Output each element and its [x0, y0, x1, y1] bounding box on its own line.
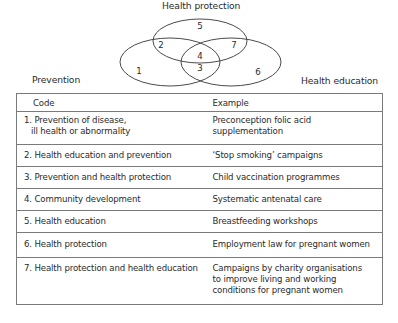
region-4-number: 4 — [197, 51, 202, 61]
header-example: Example — [210, 94, 383, 112]
code-cell: 5. Health education — [17, 211, 210, 233]
set-label-health-education: Health education — [301, 75, 378, 86]
example-cell: Campaigns by charity organisations to im… — [210, 258, 383, 305]
code-cell: 2. Health education and prevention — [17, 145, 210, 167]
code-line: ill health or abnormality — [24, 126, 206, 137]
region-5-number: 5 — [197, 21, 202, 31]
example-cell: Preconception folic acid supplementation — [210, 112, 383, 145]
region-6-number: 6 — [255, 67, 260, 77]
table-header-row: Code Example — [17, 94, 383, 112]
table-row: 3. Prevention and health protection Chil… — [17, 167, 383, 189]
example-cell: Systematic antenatal care — [210, 189, 383, 211]
region-3-number: 3 — [197, 63, 202, 73]
code-line: 1. Prevention of disease, — [24, 115, 126, 125]
prevention-ellipse — [120, 38, 220, 86]
code-example-table: Code Example 1. Prevention of disease, i… — [16, 93, 383, 305]
header-code: Code — [17, 94, 210, 112]
region-2-number: 2 — [158, 40, 163, 50]
example-cell: Child vaccination programmes — [210, 167, 383, 189]
region-7-number: 7 — [231, 40, 236, 50]
code-cell: 7. Health protection and health educatio… — [17, 258, 210, 305]
table-row: 1. Prevention of disease, ill health or … — [17, 112, 383, 145]
example-cell: Employment law for pregnant women — [210, 233, 383, 258]
region-1-number: 1 — [136, 66, 141, 76]
example-line: to improve living and working — [213, 274, 379, 285]
set-label-prevention: Prevention — [32, 74, 80, 85]
table-row: 6. Health protection Employment law for … — [17, 233, 383, 258]
table-row: 2. Health education and prevention ‘Stop… — [17, 145, 383, 167]
table-row: 5. Health education Breastfeeding worksh… — [17, 211, 383, 233]
table-row: 7. Health protection and health educatio… — [17, 258, 383, 305]
example-line: supplementation — [213, 126, 379, 137]
table-row: 4. Community development Systematic ante… — [17, 189, 383, 211]
code-cell: 4. Community development — [17, 189, 210, 211]
example-cell: Breastfeeding workshops — [210, 211, 383, 233]
example-line: Preconception folic acid — [213, 115, 379, 126]
example-line: Campaigns by charity organisations — [213, 263, 379, 274]
example-line: conditions for pregnant women — [213, 285, 379, 296]
set-label-health-protection: Health protection — [162, 0, 240, 11]
example-cell: ‘Stop smoking’ campaigns — [210, 145, 383, 167]
code-cell: 6. Health protection — [17, 233, 210, 258]
venn-diagram: Health protection Prevention Health educ… — [0, 0, 398, 92]
code-cell: 1. Prevention of disease, ill health or … — [17, 112, 210, 145]
code-cell: 3. Prevention and health protection — [17, 167, 210, 189]
